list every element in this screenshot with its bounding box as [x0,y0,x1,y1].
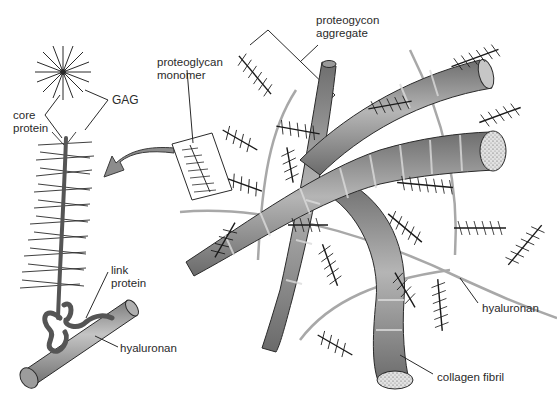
label-hyaluronan-right: hyaluronan [482,302,539,315]
label-hyaluronan-left: hyaluronan [120,342,177,355]
hyaluronan-strands [180,50,557,340]
monomer-box [172,70,232,200]
curved-arrow [104,148,174,177]
label-collagen-fibril: collagen fibril [437,371,504,384]
label-link-protein: link protein [111,264,146,290]
core-protein-stem [58,138,66,318]
label-proteoglycan-aggregate: proteogycon aggregate [316,14,379,40]
proteoglycan-diagram: GAG core protein link protein hyaluronan… [0,0,557,405]
gag-starburst [35,46,91,100]
label-gag: GAG [112,94,139,107]
label-proteoglycan-monomer: proteoglycan monomer [157,56,223,82]
core-protein-bristles [20,132,94,288]
gag-pointer-lines [45,90,108,138]
label-core-protein: core protein [13,109,48,135]
collagen-fibril-curved [320,180,413,389]
